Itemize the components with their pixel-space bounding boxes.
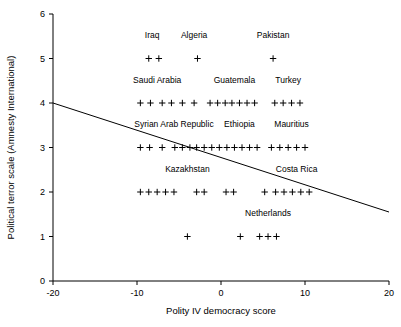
point-label: Mauritius [274, 119, 308, 129]
x-tick-label: 0 [218, 288, 223, 298]
point-label: Costa Rica [276, 164, 318, 174]
point-label: Algeria [181, 30, 208, 40]
y-tick-label: 2 [40, 187, 45, 197]
y-tick-label: 1 [40, 232, 45, 242]
point-label: Pakistan [257, 30, 290, 40]
point-label: Turkey [275, 75, 301, 85]
chart-svg: -20-10010200123456 IraqAlgeriaPakistanSa… [0, 0, 401, 327]
y-tick-label: 6 [40, 9, 45, 19]
point-label: Guatemala [214, 75, 256, 85]
y-tick-label: 0 [40, 276, 45, 286]
point-label: Ethiopia [224, 119, 255, 129]
x-axis-title: Polity IV democracy score [166, 305, 276, 316]
point-label: Syrian Arab Republic [134, 119, 214, 129]
y-tick-label: 5 [40, 54, 45, 64]
y-tick-label: 4 [40, 98, 45, 108]
x-tick-label: -10 [130, 288, 143, 298]
point-label: Netherlands [245, 208, 291, 218]
x-tick-label: -20 [46, 288, 59, 298]
point-label: Kazakhstan [165, 164, 210, 174]
y-tick-label: 3 [40, 143, 45, 153]
scatter-chart: -20-10010200123456 IraqAlgeriaPakistanSa… [0, 0, 401, 327]
y-axis-title: Political terror scale (Amnesty Internat… [5, 56, 16, 240]
x-tick-label: 20 [384, 288, 394, 298]
point-label: Saudi Arabia [133, 75, 181, 85]
point-label: Iraq [145, 30, 160, 40]
x-tick-label: 10 [300, 288, 310, 298]
